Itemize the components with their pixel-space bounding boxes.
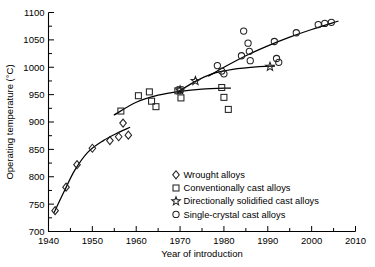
x-tick-label: 2000	[301, 235, 322, 246]
data-point-circle	[241, 28, 247, 34]
x-tick-label: 1940	[38, 235, 59, 246]
chart-svg: 7007508008509009501000105011001940195019…	[0, 0, 375, 267]
data-point-square	[135, 93, 141, 99]
x-tick-label: 1950	[82, 235, 103, 246]
y-tick-label: 750	[29, 199, 45, 210]
legend-label: Single-crystal cast alloys	[184, 210, 286, 220]
legend-marker-diamond	[173, 171, 180, 179]
x-tick-label: 2010	[345, 235, 366, 246]
legend-marker-square	[173, 185, 179, 191]
data-point-circle	[247, 58, 253, 64]
data-point-square	[178, 95, 184, 101]
data-point-circle	[245, 40, 251, 46]
legend-marker-circle	[173, 211, 179, 217]
data-point-circle	[214, 62, 220, 68]
y-tick-label: 800	[29, 171, 45, 182]
y-tick-label: 850	[29, 144, 45, 155]
data-point-square	[146, 89, 152, 95]
y-tick-label: 900	[29, 116, 45, 127]
data-point-square	[221, 94, 227, 100]
x-tick-label: 1990	[257, 235, 278, 246]
legend-label: Conventionally cast alloys	[184, 183, 291, 193]
data-point-diamond	[120, 119, 127, 127]
x-axis-title: Year of introduction	[161, 248, 243, 259]
x-tick-label: 1960	[126, 235, 147, 246]
legend-label: Directionally solidified cast alloys	[184, 196, 320, 206]
trend-line-square	[114, 88, 230, 115]
y-tick-label: 1000	[23, 62, 44, 73]
y-tick-label: 1100	[24, 7, 44, 18]
y-axis-title: Operating temperature (°C)	[4, 64, 15, 179]
y-tick-label: 950	[29, 89, 45, 100]
x-tick-label: 1970	[170, 235, 191, 246]
legend-label: Wrought alloys	[184, 170, 246, 180]
legend-marker-star	[172, 197, 181, 205]
y-tick-label: 1050	[23, 34, 44, 45]
data-point-square	[225, 106, 231, 112]
data-point-square	[219, 85, 225, 91]
trend-line-circle	[209, 21, 338, 76]
data-point-diamond	[125, 131, 132, 139]
x-tick-label: 1980	[213, 235, 234, 246]
operating-temperature-chart: 7007508008509009501000105011001940195019…	[0, 0, 375, 267]
